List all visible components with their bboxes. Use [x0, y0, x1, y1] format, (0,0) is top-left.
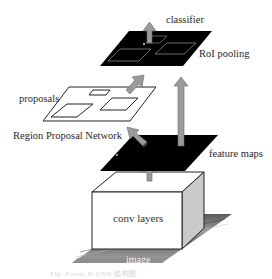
roi-pooling-plane: [100, 31, 212, 66]
label-roi-pooling: RoI pooling: [199, 48, 249, 59]
conv-layers-box: [92, 172, 204, 249]
label-conv-layers: conv layers: [113, 212, 163, 224]
label-feature-maps: feature maps: [209, 148, 263, 159]
proposals-plane: [43, 87, 156, 121]
label-image: image: [126, 254, 150, 265]
label-rpn: Region Proposal Network: [13, 130, 122, 141]
label-classifier: classifier: [166, 14, 204, 25]
figure-caption: Fig. Faster R-CNN 结构图: [50, 268, 137, 278]
label-proposals: proposals: [19, 93, 59, 104]
